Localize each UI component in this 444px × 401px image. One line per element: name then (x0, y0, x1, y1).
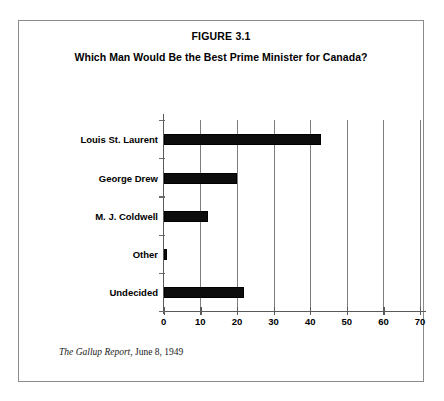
x-axis-tick-label: 20 (225, 316, 249, 327)
source-publication: The Gallup Report (59, 347, 130, 357)
x-axis-tick (310, 307, 311, 315)
category-label: Louis St. Laurent (80, 134, 158, 145)
bar (164, 134, 322, 145)
bar-chart-plot-area: 010203040506070 (164, 120, 420, 311)
x-axis-tick-label: 50 (335, 316, 359, 327)
gridline (237, 120, 238, 311)
x-axis-tick (383, 307, 384, 315)
x-axis-tick-label: 30 (262, 316, 286, 327)
x-axis-tick (237, 307, 238, 315)
source-date: , June 8, 1949 (130, 347, 183, 357)
x-axis-tick (200, 307, 201, 315)
x-axis-tick-label: 0 (152, 316, 176, 327)
y-axis-tick (159, 120, 165, 121)
x-axis-tick (347, 307, 348, 315)
bar (164, 211, 208, 222)
gridline (347, 120, 348, 311)
y-axis-tick (159, 158, 165, 159)
gridline (310, 120, 311, 311)
y-axis-tick (159, 196, 165, 197)
figure-number-label: FIGURE 3.1 (19, 30, 423, 42)
category-label: M. J. Coldwell (95, 211, 158, 222)
x-axis-tick-label: 10 (188, 316, 212, 327)
x-axis-tick-label: 40 (298, 316, 322, 327)
category-label: Undecided (109, 287, 158, 298)
figure-frame: FIGURE 3.1 Which Man Would Be the Best P… (18, 20, 424, 382)
y-axis-tick (159, 311, 165, 312)
category-axis-labels: Louis St. LaurentGeorge DrewM. J. Coldwe… (19, 120, 158, 311)
gridline (420, 120, 421, 311)
figure-title: Which Man Would Be the Best Prime Minist… (19, 51, 423, 63)
x-axis-tick-label: 60 (371, 316, 395, 327)
x-axis-line (163, 311, 426, 312)
gridline (383, 120, 384, 311)
y-axis-tick (159, 235, 165, 236)
source-note: The Gallup Report, June 8, 1949 (59, 347, 183, 357)
x-axis-tick (420, 307, 421, 315)
category-label: Other (133, 249, 158, 260)
category-label: George Drew (99, 173, 158, 184)
gridline (274, 120, 275, 311)
x-axis-tick (274, 307, 275, 315)
bar (164, 249, 168, 260)
bar (164, 173, 237, 184)
x-axis-tick-label: 70 (408, 316, 432, 327)
y-axis-tick (159, 273, 165, 274)
bar (164, 287, 245, 298)
